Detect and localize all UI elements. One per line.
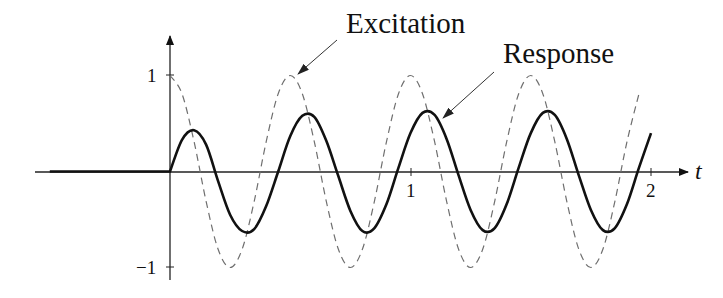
response-annotation-label: Response <box>503 37 614 69</box>
excitation-annotation-arrow <box>298 40 337 74</box>
response-annotation-arrow <box>443 72 494 118</box>
chart-canvas: 1 2 1 −1 t Excitation Response <box>0 0 723 298</box>
excitation-annotation-label: Excitation <box>346 7 466 39</box>
x-tick-label-1: 1 <box>406 180 416 201</box>
x-axis-label: t <box>695 158 703 184</box>
y-tick-label-1: 1 <box>147 65 157 86</box>
x-tick-label-2: 2 <box>646 180 656 201</box>
y-tick-label-neg1: −1 <box>136 257 156 278</box>
